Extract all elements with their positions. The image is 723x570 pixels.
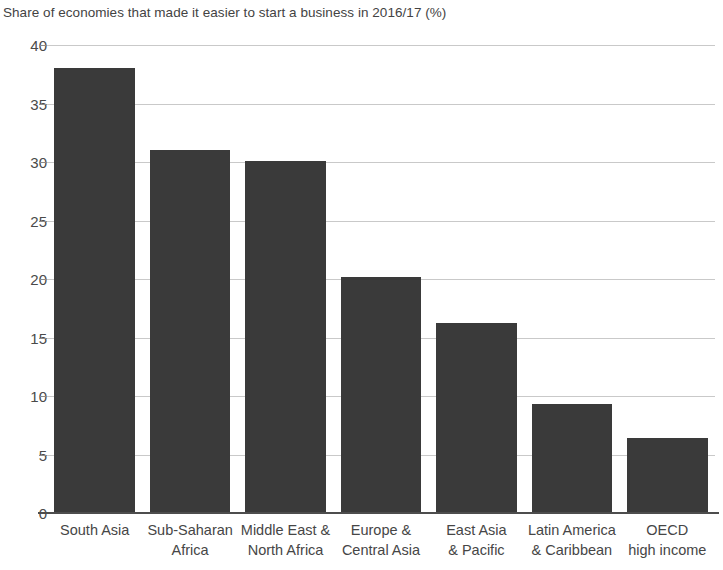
bar [627,438,708,513]
y-tick-mark [39,221,47,222]
y-axis: 0510152025303540 [0,0,47,570]
x-tick-label-line1: Latin America [528,522,616,538]
chart-title: Share of economies that made it easier t… [3,4,446,21]
x-tick-label-line1: Middle East & [241,522,330,538]
x-tick-label-line2: North Africa [238,540,333,560]
bar [150,150,231,513]
bar [54,68,135,513]
x-axis-baseline [38,512,719,514]
y-tick-mark [39,104,47,105]
x-tick-label: OECDhigh income [620,520,715,560]
x-tick-label-line2: Central Asia [333,540,428,560]
gridline [47,162,715,163]
x-tick-label-line2: & Pacific [429,540,524,560]
x-tick-label: Sub-SaharanAfrica [142,520,237,560]
x-tick-label-line2: high income [620,540,715,560]
bar [436,323,517,513]
y-tick-mark [39,162,47,163]
x-tick-label: Middle East &North Africa [238,520,333,560]
x-axis: South AsiaSub-SaharanAfricaMiddle East &… [47,520,715,570]
bar [341,277,422,513]
x-tick-label: South Asia [47,520,142,540]
x-tick-label: Latin America& Caribbean [524,520,619,560]
x-tick-label-line2: Africa [142,540,237,560]
x-tick-label-line1: Europe & [351,522,411,538]
bar [532,404,613,513]
x-tick-label-line1: East Asia [446,522,506,538]
x-tick-label-line2: & Caribbean [524,540,619,560]
x-tick-label: East Asia& Pacific [429,520,524,560]
bar-chart-figure: Share of economies that made it easier t… [0,0,723,570]
y-tick-mark [39,338,47,339]
y-tick-mark [39,455,47,456]
y-tick-mark [39,45,47,46]
y-tick-mark [39,279,47,280]
x-tick-label-line1: Sub-Saharan [147,522,232,538]
gridline [47,45,715,46]
y-tick-mark [39,396,47,397]
bar [245,161,326,513]
gridline [47,104,715,105]
gridline [47,221,715,222]
x-tick-label-line1: South Asia [60,522,129,538]
x-tick-label-line1: OECD [646,522,688,538]
plot-area [47,45,715,513]
x-tick-label: Europe &Central Asia [333,520,428,560]
